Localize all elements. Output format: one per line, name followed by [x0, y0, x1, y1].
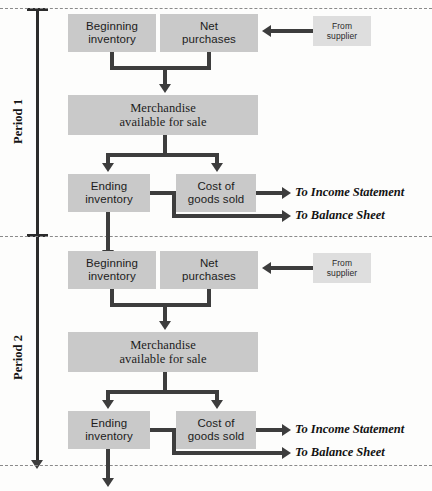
- p2-cogs-line1: Cost of: [197, 417, 234, 429]
- p1-ending-arrowhead: [102, 163, 114, 172]
- p1-to-balance-sheet-label: To Balance Sheet: [295, 208, 385, 223]
- separator-top: [0, 8, 432, 9]
- p2-beginning-inventory-line1: Beginning: [86, 257, 138, 269]
- separator-middle: [0, 236, 432, 237]
- p2-carryover-arrowhead: [102, 478, 114, 487]
- p1-supplier-arrowhead: [262, 25, 271, 37]
- p1-cogs-arrowhead: [211, 163, 223, 172]
- p2-supplier-arrow-line: [271, 266, 313, 270]
- p2-supplier-arrowhead: [262, 262, 271, 274]
- p1-from-supplier-line2: supplier: [327, 31, 358, 41]
- p1-supplier-arrow-line: [271, 29, 313, 33]
- p2-beginning-inventory-line2: inventory: [88, 270, 136, 282]
- p2-ending-inventory-line1: Ending: [91, 417, 127, 429]
- p1-net-purchases-box: Net purchases: [160, 14, 258, 52]
- p2-income-line: [256, 428, 284, 432]
- p2-from-supplier-text: From supplier: [327, 258, 358, 278]
- p2-from-supplier-line2: supplier: [327, 268, 358, 278]
- p2-cogs-box: Cost of goods sold: [176, 411, 256, 449]
- p1-ending-inventory-line1: Ending: [91, 180, 127, 192]
- p1-ending-inventory-text: Ending inventory: [85, 180, 133, 206]
- p2-merge-bar: [110, 303, 211, 307]
- p2-cogs-arrowhead: [211, 400, 223, 409]
- p1-beginning-inventory-text: Beginning inventory: [86, 20, 138, 46]
- p2-net-purchases-text: Net purchases: [182, 257, 236, 283]
- p1-net-purchases-text: Net purchases: [182, 20, 236, 46]
- p2-net-purchases-line2: purchases: [182, 270, 236, 282]
- p1-net-purchases-line2: purchases: [182, 33, 236, 45]
- p1-net-purchases-line1: Net: [200, 20, 218, 32]
- p2-ending-inventory-text: Ending inventory: [85, 417, 133, 443]
- p1-beginning-inventory-box: Beginning inventory: [68, 14, 156, 52]
- p1-from-supplier-text: From supplier: [327, 21, 358, 41]
- p1-income-line: [256, 191, 284, 195]
- p2-merchandise-text: Merchandise available for sale: [119, 338, 206, 366]
- period-2-label: Period 2: [11, 328, 26, 388]
- p2-beginning-inventory-box: Beginning inventory: [68, 251, 156, 289]
- p1-split-bar: [106, 153, 219, 157]
- p1-to-income-statement-label: To Income Statement: [295, 185, 404, 200]
- p2-merchandise-line1: Merchandise: [130, 338, 196, 352]
- p1-merge-bar: [110, 66, 211, 70]
- separator-bottom: [0, 465, 432, 466]
- period-1-label: Period 1: [11, 92, 26, 152]
- p2-split-bar: [106, 390, 219, 394]
- p2-beginning-inventory-text: Beginning inventory: [86, 257, 138, 283]
- p1-ending-inventory-box: Ending inventory: [68, 174, 150, 212]
- p2-cogs-text: Cost of goods sold: [188, 417, 245, 443]
- p1-cogs-box: Cost of goods sold: [176, 174, 256, 212]
- p2-ending-inventory-line2: inventory: [85, 430, 133, 442]
- p1-beginning-inventory-line1: Beginning: [86, 20, 138, 32]
- p2-ending-arrowhead: [102, 400, 114, 409]
- p2-net-purchases-line1: Net: [200, 257, 218, 269]
- p1-from-supplier-box: From supplier: [313, 16, 371, 46]
- p1-merchandise-line2: available for sale: [119, 115, 206, 129]
- p1-merge-down: [163, 66, 167, 86]
- p1-carryover-line: [106, 212, 110, 254]
- period-1-axis: [36, 8, 39, 236]
- p2-from-supplier-line1: From: [332, 258, 352, 268]
- p2-cogs-line2: goods sold: [188, 430, 245, 442]
- p2-carryover-line: [106, 449, 110, 481]
- p2-from-supplier-box: From supplier: [313, 253, 371, 283]
- p1-beginning-inventory-line2: inventory: [88, 33, 136, 45]
- inventory-flow-diagram: Period 1 Period 2 Beginning inventory Ne…: [0, 0, 432, 491]
- p1-from-supplier-line1: From: [332, 21, 352, 31]
- p1-income-arrowhead: [282, 187, 291, 199]
- p1-cogs-text: Cost of goods sold: [188, 180, 245, 206]
- p2-net-purchases-box: Net purchases: [160, 251, 258, 289]
- period-2-axis: [36, 236, 39, 463]
- p1-ending-inventory-line2: inventory: [85, 193, 133, 205]
- p1-merchandise-text: Merchandise available for sale: [119, 101, 206, 129]
- p2-balance-arrowhead: [282, 447, 291, 459]
- p2-merchandise-box: Merchandise available for sale: [68, 332, 258, 372]
- p2-merge-down: [163, 303, 167, 323]
- p1-split-down: [163, 135, 167, 155]
- p1-merchandise-line1: Merchandise: [130, 101, 196, 115]
- p1-cogs-line2: goods sold: [188, 193, 245, 205]
- p2-ending-inventory-box: Ending inventory: [68, 411, 150, 449]
- p2-to-income-statement-label: To Income Statement: [295, 422, 404, 437]
- p2-income-arrowhead: [282, 424, 291, 436]
- p1-cogs-line1: Cost of: [197, 180, 234, 192]
- p1-balance-arrowhead: [282, 210, 291, 222]
- p2-to-balance-sheet-label: To Balance Sheet: [295, 445, 385, 460]
- p2-split-down: [163, 372, 167, 392]
- p1-merchandise-box: Merchandise available for sale: [68, 95, 258, 135]
- p2-merchandise-line2: available for sale: [119, 352, 206, 366]
- p2-merge-arrowhead: [159, 321, 171, 330]
- p2-balance-line: [172, 451, 284, 455]
- p1-balance-line: [172, 214, 284, 218]
- p1-merge-arrowhead: [159, 84, 171, 93]
